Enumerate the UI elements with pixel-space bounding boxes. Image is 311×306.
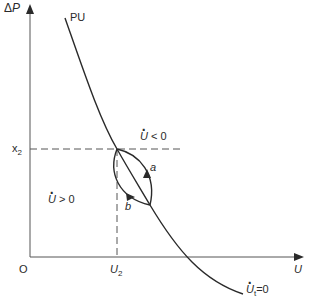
- x-axis-label: U: [294, 264, 302, 275]
- x2-tick-label: x2: [12, 143, 22, 157]
- y-axis-label-delta: Δ: [4, 1, 12, 15]
- u2-tick-sub: 2: [118, 269, 122, 278]
- y-axis-arrow-icon: [26, 4, 34, 14]
- udot-upper-var: U: [140, 131, 148, 142]
- u2-tick-label: U2: [110, 264, 122, 278]
- pu-curve: [65, 18, 243, 294]
- u2-tick-var: U: [110, 263, 118, 275]
- x2-tick-sub: 2: [18, 148, 22, 157]
- region-lower-label: U > 0: [48, 194, 75, 205]
- path-b-label: b: [125, 201, 131, 212]
- region-upper-label: U < 0: [140, 131, 167, 142]
- phase-diagram: [0, 0, 311, 306]
- y-axis-label-var: P: [12, 1, 20, 15]
- origin-label: O: [19, 264, 28, 275]
- nullcline-var: U: [246, 284, 254, 295]
- y-axis-label: ΔP: [4, 2, 20, 14]
- udot-upper-rel: < 0: [148, 130, 167, 142]
- pu-curve-label: PU: [70, 12, 85, 23]
- nullcline-label: Ut=0: [246, 284, 269, 298]
- udot-lower-var: U: [48, 194, 56, 205]
- x-axis-arrow-icon: [294, 253, 304, 261]
- nullcline-eq: =0: [256, 283, 269, 295]
- udot-lower-rel: > 0: [56, 193, 75, 205]
- path-a-label: a: [150, 162, 156, 173]
